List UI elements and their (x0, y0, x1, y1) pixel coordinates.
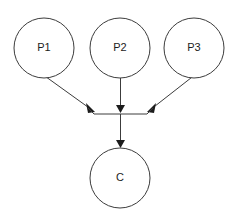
node-p2[interactable]: P2 (90, 18, 150, 78)
node-p1[interactable]: P1 (14, 18, 74, 78)
edge-p1-to-junction (42, 74, 95, 113)
edge-line-p3 (150, 74, 196, 110)
node-label-p1: P1 (37, 41, 50, 53)
node-label-c: C (116, 171, 124, 183)
edge-p3-to-junction (147, 74, 196, 113)
edge-line-p1 (42, 74, 92, 110)
causal-diagram: P1 P2 P3 C (0, 0, 239, 219)
arrow-head-p1 (86, 103, 95, 113)
node-p3[interactable]: P3 (164, 18, 224, 78)
arrow-head-c (116, 140, 125, 148)
diagram-canvas: P1 P2 P3 C (0, 0, 239, 219)
edge-junction-to-c (116, 114, 125, 148)
edge-p2-to-junction (116, 78, 125, 113)
arrow-head-p2 (116, 105, 125, 113)
node-label-p3: P3 (187, 41, 200, 53)
node-label-p2: P2 (113, 41, 126, 53)
arrow-head-p3 (147, 103, 156, 113)
node-c[interactable]: C (90, 148, 150, 208)
